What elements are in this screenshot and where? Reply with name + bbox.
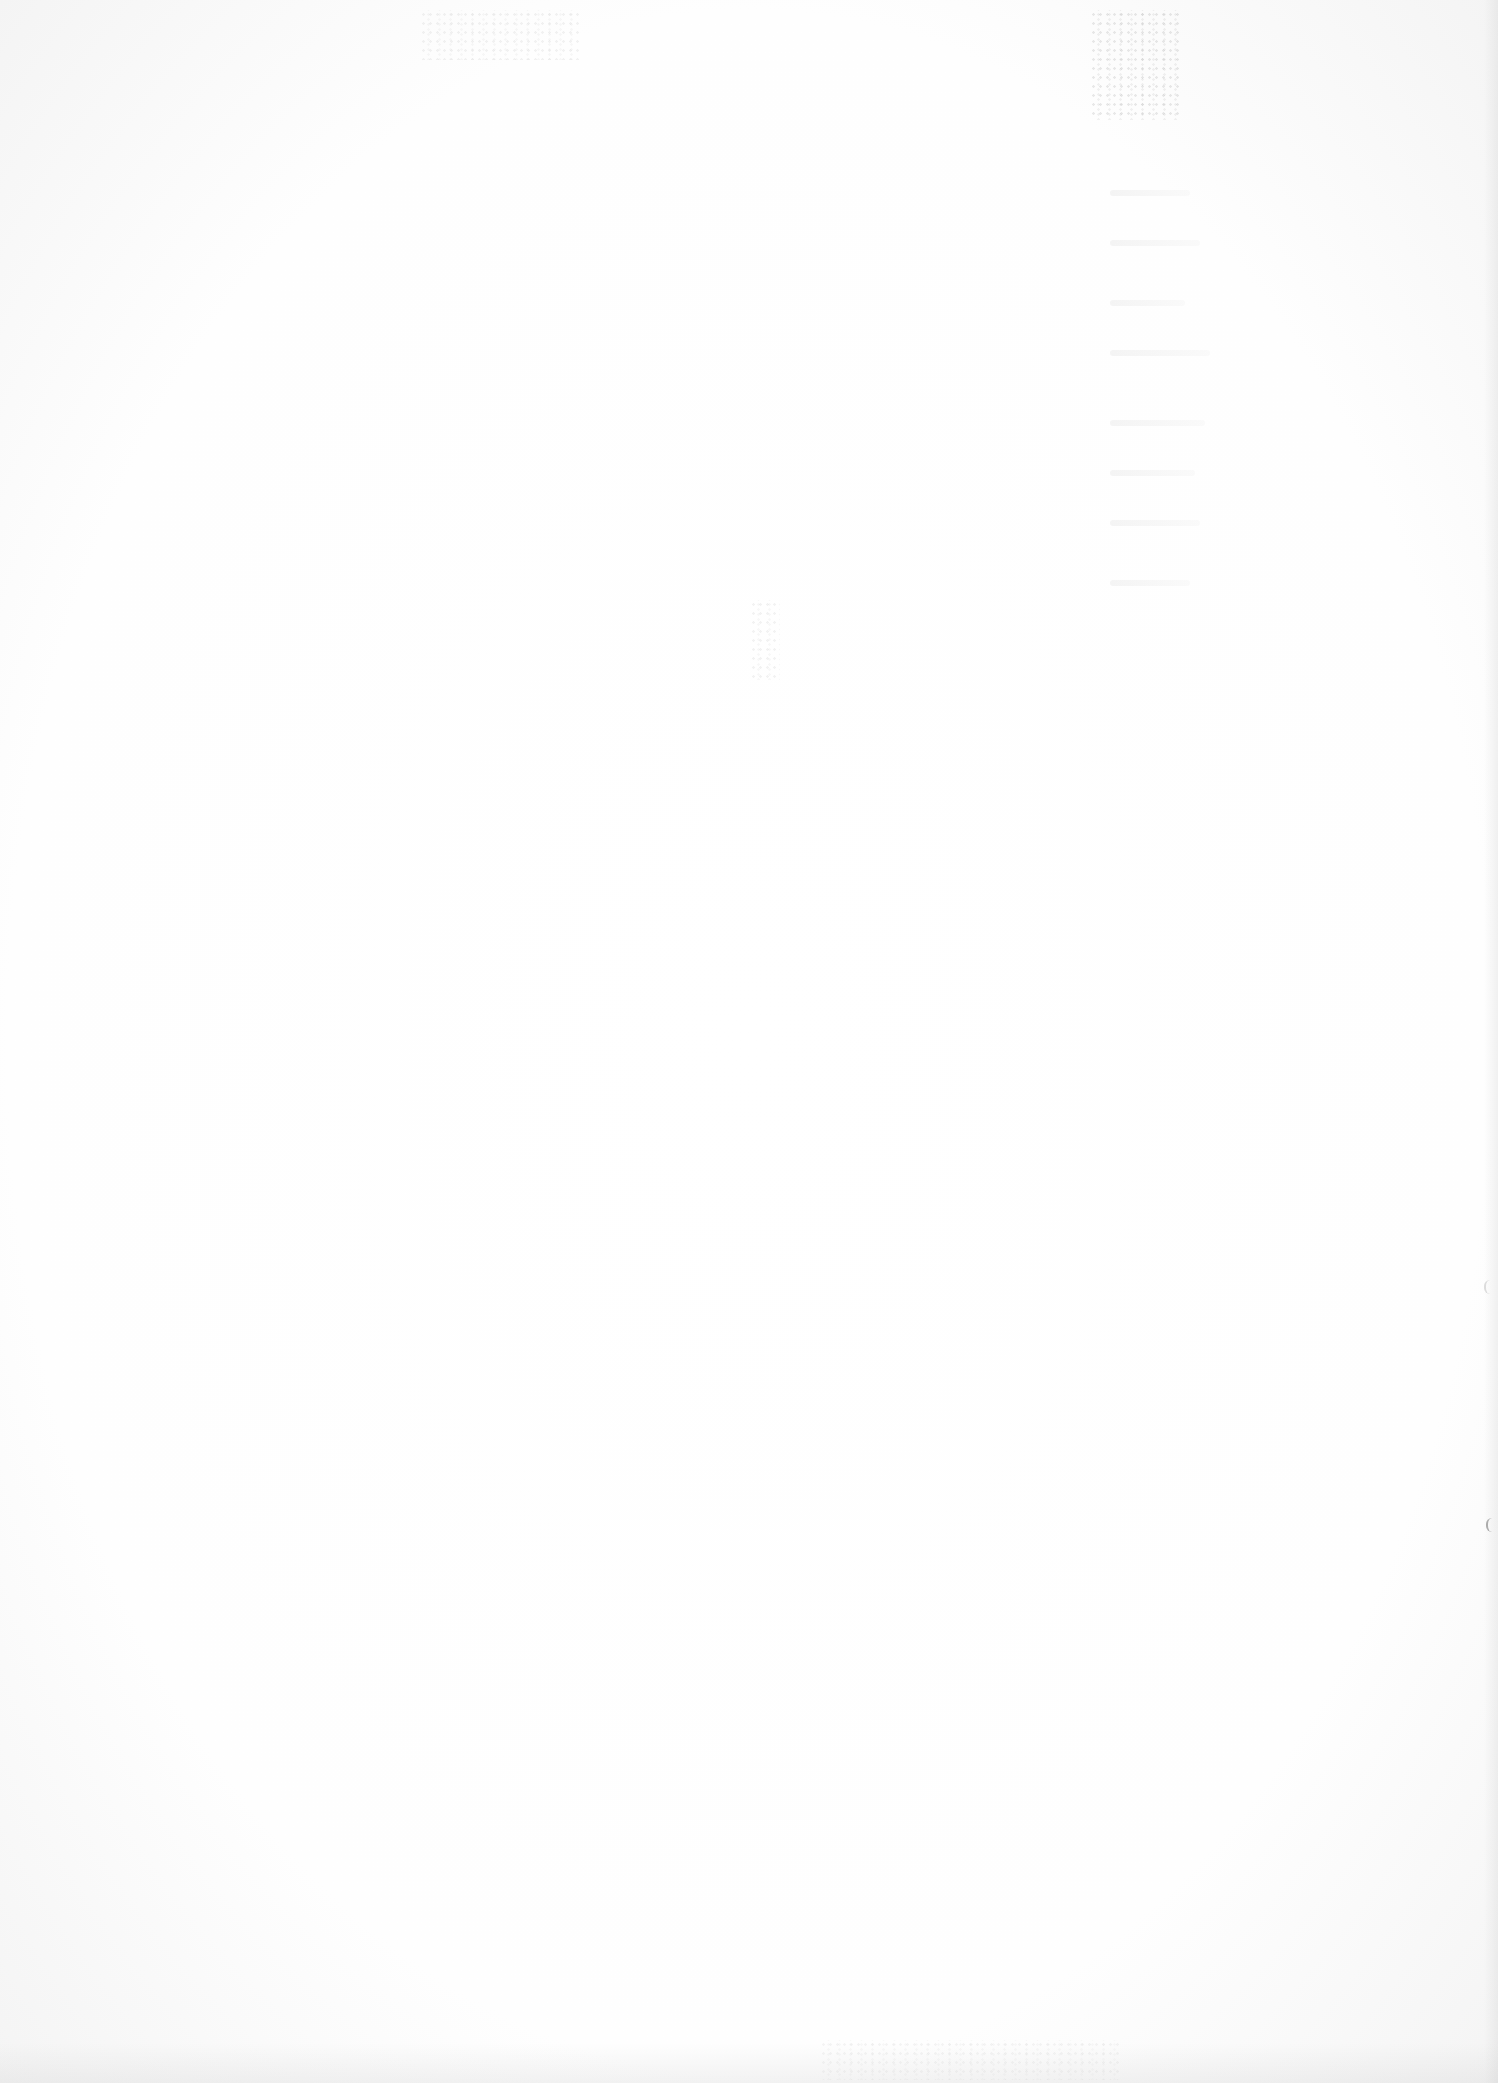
blank-document-page [0, 0, 1498, 2083]
bleed-through-line [1110, 300, 1185, 306]
page-bottom-shadow [0, 2043, 1498, 2083]
bleed-through-speckle-top [420, 10, 580, 60]
page-edge-shadow [1484, 0, 1498, 2083]
bleed-through-line [1110, 470, 1195, 476]
bleed-through-line [1110, 420, 1205, 426]
bleed-through-speckle-middle [750, 600, 780, 680]
bleed-through-line [1110, 190, 1190, 196]
bleed-through-line [1110, 580, 1190, 586]
bleed-through-line [1110, 240, 1200, 246]
bleed-through-speckle-top-right [1090, 10, 1180, 120]
bleed-through-line [1110, 520, 1200, 526]
bleed-through-line [1110, 350, 1210, 356]
